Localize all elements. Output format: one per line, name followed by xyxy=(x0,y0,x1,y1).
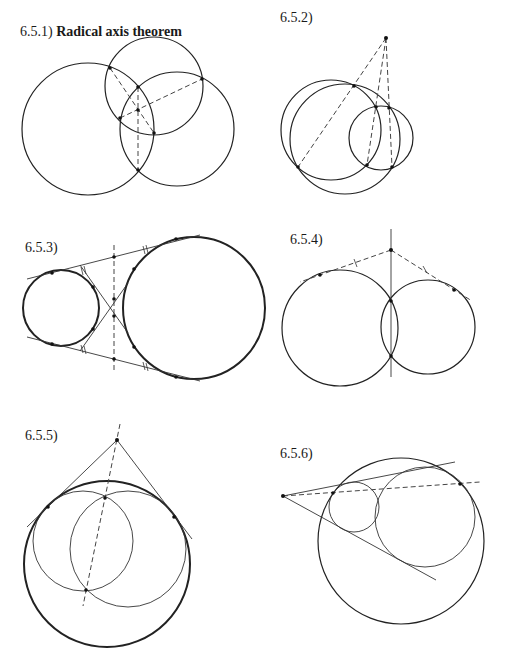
diagram-6-5-1 xyxy=(22,37,234,195)
circle-large xyxy=(123,237,265,379)
radical-axis-2 xyxy=(120,79,202,118)
circle-left xyxy=(22,63,154,195)
radical-axis xyxy=(83,424,120,606)
figures-canvas xyxy=(0,0,506,664)
diagram-6-5-5 xyxy=(24,424,192,647)
circle-small xyxy=(23,270,99,346)
diagram-6-5-6 xyxy=(281,458,484,624)
radical-center xyxy=(136,108,140,112)
tangent-right xyxy=(117,440,192,539)
point-p xyxy=(384,36,388,40)
tangent-lower xyxy=(283,496,436,580)
tangent-left xyxy=(27,440,117,527)
circle-c xyxy=(349,106,413,170)
diagram-6-5-3 xyxy=(23,235,265,381)
secant-dashed xyxy=(283,482,480,496)
diagram-6-5-2 xyxy=(281,36,413,194)
diagram-6-5-4 xyxy=(282,229,475,386)
tangent-upper xyxy=(283,462,455,496)
